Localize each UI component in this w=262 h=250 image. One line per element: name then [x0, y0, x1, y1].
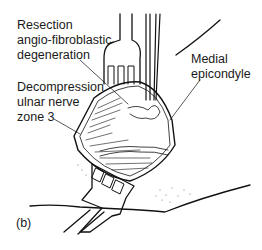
panel-label: (b)	[16, 216, 31, 231]
label-decompression-line1: Decompression	[17, 80, 104, 95]
degeneration-tissue	[128, 105, 160, 119]
label-medial-line1: Medial	[191, 52, 251, 67]
bottom-retractor-handle	[64, 210, 104, 234]
label-resection-line3: degeneration	[17, 48, 112, 63]
label-medial-epicondyle: Medial epicondyle	[191, 52, 251, 82]
arm-contour-upper	[176, 20, 220, 55]
skin-stipple	[78, 165, 191, 203]
label-resection-line1: Resection	[17, 18, 112, 33]
medial-leader	[170, 80, 200, 120]
top-retractor-teeth	[108, 66, 134, 84]
label-decompression: Decompression ulnar nerve zone 3	[17, 80, 104, 125]
label-decompression-line2: ulnar nerve	[17, 95, 104, 110]
label-decompression-line3: zone 3	[17, 110, 104, 125]
arm-contour-lower	[30, 185, 250, 212]
forceps	[146, 14, 160, 100]
label-medial-line2: epicondyle	[191, 67, 251, 82]
label-resection: Resection angio-fibroblastic degeneratio…	[17, 18, 112, 63]
label-resection-line2: angio-fibroblastic	[17, 33, 112, 48]
